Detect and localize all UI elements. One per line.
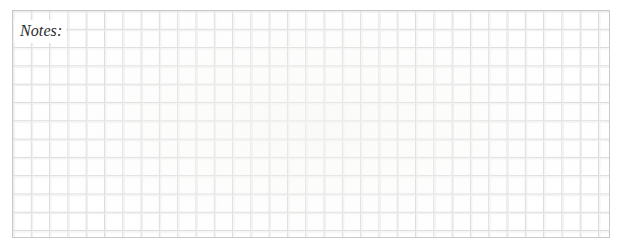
notes-label-background: Notes: <box>14 20 66 43</box>
notes-grid-box[interactable]: Notes: <box>12 10 610 238</box>
notes-page: Notes: <box>0 0 617 250</box>
grid-lines <box>13 11 609 237</box>
notes-label: Notes: <box>20 20 62 42</box>
